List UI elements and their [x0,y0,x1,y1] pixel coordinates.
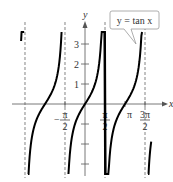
x-tick-label-denominator: 2 [143,121,148,132]
tan-curve-branch [21,32,24,41]
x-axis-arrow-icon [162,102,168,107]
x-tick-label-numerator: 3π [140,109,150,120]
y-axis-label: y [82,9,88,20]
x-tick-label: π [127,109,132,120]
y-tick-label: 3 [74,39,79,50]
tan-curve-branch [68,32,108,174]
x-tick-label-denominator: 2 [62,121,67,132]
y-tick-label: 2 [74,59,79,70]
tan-curve-branch [148,142,151,174]
y-axis-arrow-icon [83,21,88,28]
function-label: y = tan x [117,15,152,26]
x-axis-label: x [168,98,173,109]
x-tick-label-numerator: π [62,109,67,120]
tangent-graph: xy123π2−π2π3π2y = tan x [0,0,173,182]
tan-curve-branch [28,32,62,174]
plot-area: xy123π2−π2π3π2y = tan x [0,0,173,182]
x-tick-label-sign: − [54,114,60,125]
y-tick-label: 1 [74,79,79,90]
tan-curve-branch [102,32,142,174]
